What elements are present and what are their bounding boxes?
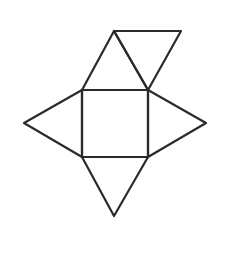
- center-square: [82, 90, 148, 157]
- right-triangle: [148, 90, 206, 157]
- bottom-triangle: [82, 157, 148, 216]
- diagram-canvas: [0, 0, 228, 262]
- shape-layer: [24, 31, 206, 216]
- left-triangle: [24, 90, 82, 157]
- top-triangle: [82, 31, 148, 90]
- top-right-triangle: [114, 31, 181, 90]
- pyramid-net-diagram: [0, 0, 228, 262]
